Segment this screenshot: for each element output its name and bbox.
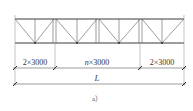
diagonal: [77, 19, 97, 43]
node: [161, 42, 163, 44]
middle-segment-length: ×3000: [89, 58, 110, 67]
left-segment-label: 2×3000: [23, 58, 48, 67]
figure-caption: a）: [92, 95, 102, 103]
right-segment-label: 2×3000: [150, 58, 175, 67]
truss: [15, 19, 184, 44]
dimension-line-segments: 2×3000 n×3000 2×3000: [13, 58, 186, 70]
diagonal: [35, 19, 54, 43]
diagonal: [99, 19, 119, 43]
diagonal: [162, 19, 184, 43]
total-length-label: L: [93, 73, 99, 83]
diagonal: [15, 19, 35, 43]
middle-segment-label: n×3000: [85, 58, 110, 67]
diagonal: [142, 19, 162, 43]
web-members: [15, 19, 184, 43]
dimension-line-total: L: [13, 73, 186, 86]
node: [118, 42, 120, 44]
node: [34, 42, 36, 44]
diagonal: [119, 19, 140, 43]
truss-diagram: 2×3000 n×3000 2×3000 L a）: [0, 0, 193, 111]
diagonal: [56, 19, 77, 43]
node: [76, 42, 78, 44]
